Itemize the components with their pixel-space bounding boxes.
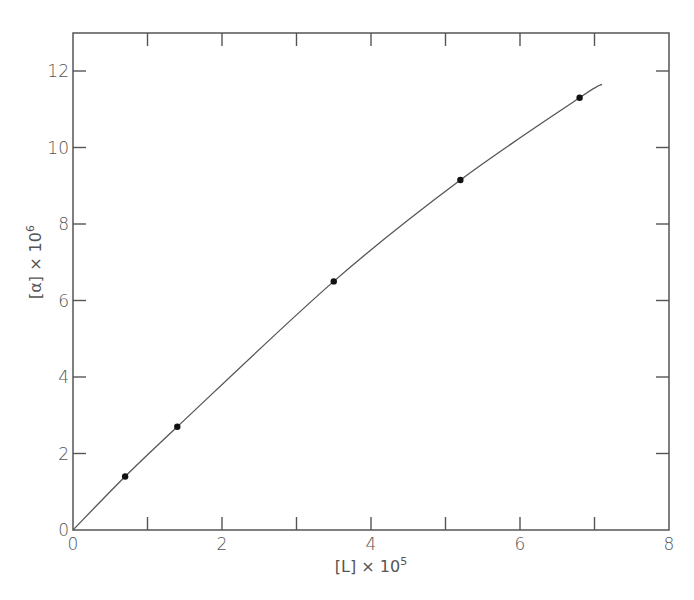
y-tick-label: 4 bbox=[58, 367, 69, 387]
x-tick-label: 6 bbox=[515, 534, 526, 554]
tick-labels: 02468024681012 bbox=[47, 61, 674, 554]
x-tick-label: 2 bbox=[217, 534, 228, 554]
x-tick-label: 0 bbox=[68, 534, 79, 554]
x-axis-label-exponent: 5 bbox=[400, 555, 407, 568]
data-point-marker bbox=[576, 95, 582, 101]
x-axis-label-base: [L] × 10 bbox=[335, 557, 400, 576]
y-tick-label: 12 bbox=[47, 61, 69, 81]
y-axis-label-exponent: 6 bbox=[24, 225, 37, 232]
data-point-marker bbox=[331, 278, 337, 284]
y-tick-label: 8 bbox=[58, 214, 69, 234]
y-axis-label-base: [α] × 10 bbox=[26, 232, 45, 299]
x-axis-label: [L] × 105 bbox=[335, 555, 407, 576]
y-tick-label: 6 bbox=[58, 291, 69, 311]
data-points bbox=[122, 95, 583, 480]
data-point-marker bbox=[122, 473, 128, 479]
chart-canvas: 02468024681012 [L] × 105 [α] × 106 bbox=[0, 0, 694, 600]
y-axis-label: [α] × 106 bbox=[24, 225, 45, 299]
tick-marks bbox=[73, 33, 669, 530]
y-tick-label: 2 bbox=[58, 444, 69, 464]
fitted-curve bbox=[73, 84, 602, 530]
data-point-marker bbox=[174, 424, 180, 430]
plot-frame bbox=[73, 33, 669, 530]
x-tick-label: 4 bbox=[366, 534, 377, 554]
data-point-marker bbox=[457, 177, 463, 183]
y-tick-label: 0 bbox=[58, 520, 69, 540]
x-tick-label: 8 bbox=[664, 534, 675, 554]
chart: 02468024681012 [L] × 105 [α] × 106 bbox=[0, 0, 694, 600]
y-tick-label: 10 bbox=[47, 138, 69, 158]
